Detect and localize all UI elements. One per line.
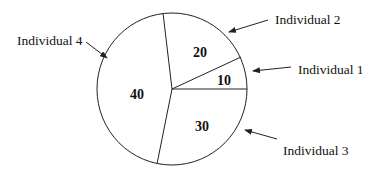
label-individual-4: Individual 4 [17,33,83,48]
label-individual-3: Individual 3 [283,143,349,158]
pie-chart: 20 10 40 30 Individual 4 Individual 2 In… [0,0,380,175]
slice-value-40: 40 [130,87,144,102]
divider-30-40 [157,89,172,164]
slice-value-20: 20 [193,45,207,60]
arrow-individual-2 [229,20,268,32]
arrow-individual-3 [245,130,277,139]
divider-40-20 [163,13,172,89]
label-individual-2: Individual 2 [275,12,341,27]
arrow-individual-4 [86,42,107,58]
arrow-individual-1 [253,67,291,71]
slice-value-30: 30 [195,119,209,134]
label-individual-1: Individual 1 [298,62,364,77]
slice-value-10: 10 [217,73,231,88]
